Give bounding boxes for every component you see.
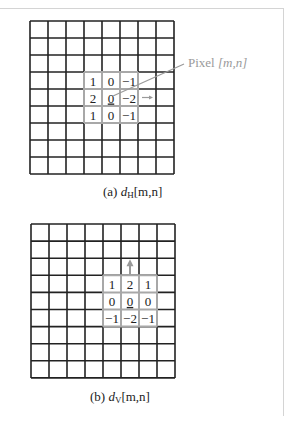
figure-b-caption: (b) dV[m,n] [90,389,150,405]
pixel-label-text: Pixel [188,55,218,70]
figure-a-grid: 10−120−210−1121000−1−2−1 [0,0,293,422]
caption-a-prefix: (a) [103,184,121,199]
figure-b-kernel-value: 0 [127,294,134,309]
figure-a-kernel-value: −1 [122,108,136,123]
figure-a-caption: (a) dH[m,n] [103,184,162,200]
up-arrowhead-icon [127,259,134,266]
figure-b-kernel-value: 1 [109,277,116,292]
figure-b-kernel-value: 0 [109,294,116,309]
caption-b-args: [m,n] [121,389,150,404]
figure-a-kernel-value: 1 [90,74,97,89]
figure-b-kernel-value: 0 [145,294,152,309]
figure-a-kernel-value: −2 [122,91,136,106]
figure-a-kernel-value: 0 [108,74,115,89]
figure-a-kernel-value: 0 [108,91,115,106]
figure-b-kernel-value: −2 [123,311,137,326]
figure-b-kernel-value: −1 [105,311,119,326]
figure-a-kernel-value: 1 [90,108,97,123]
pixel-label: Pixel [m,n] [188,55,247,71]
figure-a-kernel-value: 2 [90,91,97,106]
figure-a-kernel-value: 0 [108,108,115,123]
figure-b-kernel-value: 1 [145,277,152,292]
pixel-label-args: [m,n] [218,55,247,70]
caption-a-args: [m,n] [134,184,163,199]
caption-b-prefix: (b) [90,389,108,404]
figure-b-kernel-value: −1 [141,311,155,326]
right-arrowhead-icon [149,96,153,100]
figure-b-kernel-value: 2 [127,277,134,292]
